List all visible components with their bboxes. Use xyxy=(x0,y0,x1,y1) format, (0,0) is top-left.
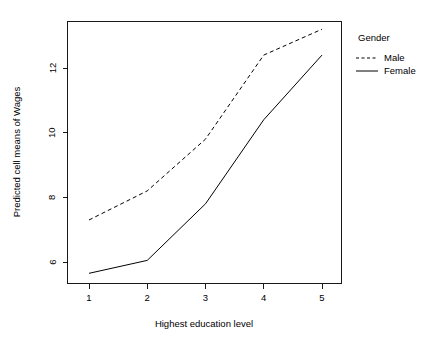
x-tick-label-3: 3 xyxy=(203,292,208,303)
y-tick-label-10: 10 xyxy=(47,127,58,138)
y-axis-tick-labels: 681012 xyxy=(47,63,58,265)
series-line-female xyxy=(89,55,322,273)
plot-panel-border xyxy=(68,22,342,284)
y-tick-label-12: 12 xyxy=(47,63,58,74)
y-tick-label-8: 8 xyxy=(47,195,58,200)
legend-label-male: Male xyxy=(384,52,405,63)
x-tick-label-4: 4 xyxy=(261,292,266,303)
legend-title: Gender xyxy=(358,32,390,43)
y-axis-ticks xyxy=(63,68,68,262)
y-tick-label-6: 6 xyxy=(47,259,58,264)
legend-label-female: Female xyxy=(384,65,416,76)
interaction-plot-figure: 681012 12345 Highest education level Pre… xyxy=(0,0,427,349)
legend: Gender MaleFemale xyxy=(356,32,416,76)
x-axis-ticks xyxy=(89,284,322,289)
plot-canvas: 681012 12345 Highest education level Pre… xyxy=(0,0,427,349)
y-axis-title: Predicted cell means of Wages xyxy=(11,86,22,217)
x-tick-label-2: 2 xyxy=(145,292,150,303)
series-line-male xyxy=(89,29,322,220)
x-axis-tick-labels: 12345 xyxy=(86,292,324,303)
legend-entries: MaleFemale xyxy=(356,52,416,76)
x-axis-title: Highest education level xyxy=(155,318,253,329)
x-tick-label-1: 1 xyxy=(86,292,91,303)
x-tick-label-5: 5 xyxy=(319,292,324,303)
data-series-group xyxy=(89,29,322,273)
